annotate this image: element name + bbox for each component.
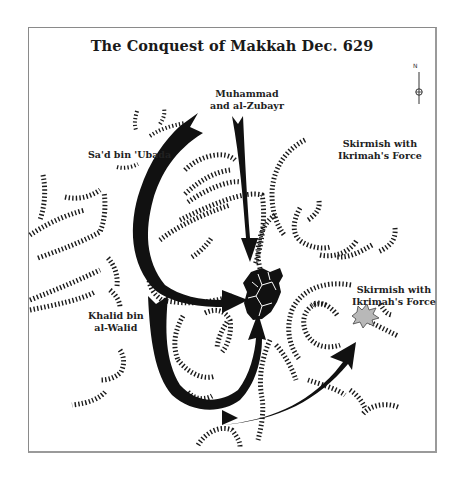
label-skirmish-mid: Skirmish with Ikrimah's Force bbox=[352, 284, 436, 307]
label-muhammad: Muhammad and al-Zubayr bbox=[210, 88, 284, 111]
label-muhammad-line1: Muhammad bbox=[210, 88, 284, 100]
label-muhammad-line2: and al-Zubayr bbox=[210, 100, 284, 112]
label-skirmish-mid-line1: Skirmish with bbox=[352, 284, 436, 296]
label-skirmish-top-line2: Ikrimah's Force bbox=[338, 150, 422, 162]
label-khalid-line1: Khalid bin bbox=[88, 310, 144, 322]
label-skirmish-mid-line2: Ikrimah's Force bbox=[352, 296, 436, 308]
north-label: N bbox=[413, 62, 418, 69]
map-canvas: .h { fill: none; stroke: #1a1a1a; stroke… bbox=[0, 0, 464, 483]
skirmish-burst-icon bbox=[352, 304, 379, 328]
label-skirmish-top: Skirmish with Ikrimah's Force bbox=[338, 138, 422, 161]
arrow-sad-bin-ubada bbox=[133, 113, 248, 313]
map-title: The Conquest of Makkah Dec. 629 bbox=[0, 37, 464, 54]
label-sad-bin-ubada: Sa'd bin 'Ubada bbox=[88, 149, 171, 161]
label-skirmish-top-line1: Skirmish with bbox=[338, 138, 422, 150]
arrow-muhammad bbox=[232, 116, 258, 262]
north-arrow-icon bbox=[416, 72, 422, 104]
makkah-city-icon bbox=[243, 268, 283, 320]
arrow-to-skirmish bbox=[222, 342, 356, 425]
label-khalid: Khalid bin al-Walid bbox=[88, 310, 144, 333]
label-khalid-line2: al-Walid bbox=[88, 322, 144, 334]
